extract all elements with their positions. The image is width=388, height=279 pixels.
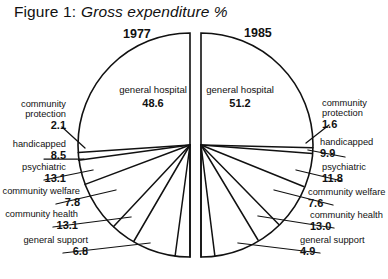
slice-name-line1: community bbox=[0, 99, 66, 109]
slice-value: 2.1 bbox=[0, 119, 66, 131]
slice-name: general support bbox=[0, 235, 88, 245]
slice-label-1977-community-welfare: community welfare 7.8 bbox=[0, 186, 80, 208]
slice-value: 9.9 bbox=[320, 147, 388, 159]
slice-name: community welfare bbox=[308, 187, 388, 197]
slice-value: 11.8 bbox=[322, 172, 388, 184]
slice-value: 7.8 bbox=[0, 196, 80, 208]
slice-value: 51.2 bbox=[200, 97, 280, 109]
slice-name: community health bbox=[0, 209, 78, 219]
slice-name: community welfare bbox=[0, 186, 80, 196]
slice-value: 8.5 bbox=[0, 149, 66, 161]
slice-label-1985-community-welfare: community welfare 7.6 bbox=[308, 187, 388, 209]
slice-value: 1.6 bbox=[322, 118, 388, 130]
slice-label-1985-handicapped: handicapped 9.9 bbox=[320, 137, 388, 159]
slice-label-1985-general-support: general support 4.9 bbox=[300, 235, 388, 257]
slice-name-line2: protection bbox=[0, 109, 66, 119]
pie-half-outline-1977 bbox=[78, 33, 190, 257]
slice-label-1977-community-protection: community protection 2.1 bbox=[0, 99, 66, 132]
slice-value: 7.6 bbox=[308, 197, 388, 209]
slice-name: psychiatric bbox=[0, 162, 66, 172]
slice-name: handicapped bbox=[320, 137, 388, 147]
slice-label-1985-general-hospital: general hospital 51.2 bbox=[200, 85, 280, 109]
slice-value: 13.1 bbox=[0, 172, 66, 184]
slice-label-1977-community-health: community health 13.1 bbox=[0, 209, 78, 231]
slice-label-1985-psychiatric: psychiatric 11.8 bbox=[322, 162, 388, 184]
slice-value: 13.1 bbox=[0, 219, 78, 231]
slice-label-1985-community-protection: community protection 1.6 bbox=[322, 98, 388, 131]
slice-name: community health bbox=[310, 210, 388, 220]
slice-value: 13.0 bbox=[310, 220, 388, 232]
slice-label-1977-psychiatric: psychiatric 13.1 bbox=[0, 162, 66, 184]
slice-name: handicapped bbox=[0, 139, 66, 149]
slice-label-1985-community-health: community health 13.0 bbox=[310, 210, 388, 232]
slice-value: 48.6 bbox=[113, 97, 193, 109]
slice-label-1977-handicapped: handicapped 8.5 bbox=[0, 139, 66, 161]
figure-container: Figure 1:Gross expenditure % 1977 1985 bbox=[0, 0, 388, 279]
slice-value: 6.8 bbox=[0, 245, 88, 257]
slice-label-1977-general-hospital: general hospital 48.6 bbox=[113, 85, 193, 109]
slice-label-1977-general-support: general support 6.8 bbox=[0, 235, 88, 257]
slice-value: 4.9 bbox=[300, 245, 388, 257]
slice-name: general hospital bbox=[200, 85, 280, 96]
slice-name: general hospital bbox=[113, 85, 193, 96]
slice-name-line1: community bbox=[322, 98, 388, 108]
slice-name: psychiatric bbox=[322, 162, 388, 172]
slice-name-line2: protection bbox=[322, 108, 388, 118]
slice-name: general support bbox=[300, 235, 388, 245]
